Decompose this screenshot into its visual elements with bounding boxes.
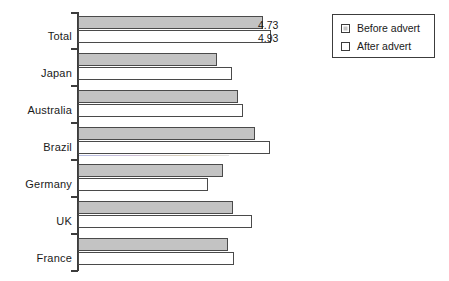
axis-tick xyxy=(71,85,78,87)
legend-swatch-gray-icon xyxy=(341,24,350,33)
legend-swatch-white-icon xyxy=(341,42,350,51)
bar-japan-after-advert xyxy=(78,67,232,80)
category-label-japan: Japan xyxy=(41,67,72,79)
bar-brazil-before-advert xyxy=(78,127,255,140)
category-label-australia: Australia xyxy=(27,104,72,116)
axis-tick xyxy=(71,233,78,235)
bar-france-after-advert xyxy=(78,252,234,265)
category-label-total: Total xyxy=(48,30,72,42)
bar-france-before-advert xyxy=(78,238,228,251)
category-label-brazil: Brazil xyxy=(43,141,72,153)
axis-tick xyxy=(71,48,78,50)
axis-tick xyxy=(71,12,78,14)
axis-tick xyxy=(71,122,78,124)
category-label-france: France xyxy=(37,252,72,264)
scan-artifact-line xyxy=(79,155,229,156)
legend-label-after-advert: After advert xyxy=(357,41,411,52)
axis-tick xyxy=(71,270,78,272)
bar-australia-after-advert xyxy=(78,104,243,117)
bar-brazil-after-advert xyxy=(78,141,270,154)
bar-uk-after-advert xyxy=(78,215,252,228)
axis-tick xyxy=(71,159,78,161)
bar-germany-before-advert xyxy=(78,164,223,177)
category-label-germany: Germany xyxy=(25,178,72,190)
value-label-total-after: 4.93 xyxy=(258,33,278,44)
legend-label-before-advert: Before advert xyxy=(357,23,420,34)
bar-uk-before-advert xyxy=(78,201,233,214)
bar-australia-before-advert xyxy=(78,90,238,103)
value-label-total-before: 4.73 xyxy=(258,20,278,31)
legend-item-before-advert: Before advert xyxy=(341,20,434,37)
bar-chart: Total Japan Australia Brazil Germany UK … xyxy=(0,0,449,281)
bar-japan-before-advert xyxy=(78,53,217,66)
bar-germany-after-advert xyxy=(78,178,208,191)
axis-tick xyxy=(71,196,78,198)
legend: Before advert After advert xyxy=(332,14,435,58)
bar-total-after-advert xyxy=(78,30,271,43)
legend-item-after-advert: After advert xyxy=(341,38,434,55)
category-label-uk: UK xyxy=(56,215,72,227)
bar-total-before-advert xyxy=(78,16,263,29)
